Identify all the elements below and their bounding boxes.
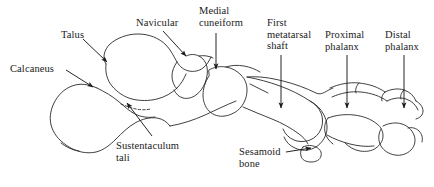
label-first-metatarsal: First metatarsal shaft (267, 17, 311, 52)
talus-bone (104, 34, 211, 71)
talus-inferior-border (106, 64, 186, 101)
plantar-contour (170, 101, 236, 126)
lesser-toe-proximal (332, 92, 387, 101)
navicular-bone (174, 55, 207, 99)
label-medial-cuneiform: Medial cuneiform (199, 5, 243, 28)
lesser-toe-joint-c (401, 90, 404, 99)
calcaneus-posterior-notch (61, 143, 79, 151)
proximal-phalanx-bone (328, 115, 383, 152)
metatarsal-inferior-border (243, 107, 308, 144)
leader-navicular (163, 31, 186, 56)
leader-sustentaculum-tali (127, 103, 152, 136)
metatarsal-head (284, 101, 327, 150)
proximal-phalanx-inferior (327, 135, 374, 146)
metatarsal-base-notch (250, 84, 268, 93)
label-talus: Talus (61, 29, 84, 41)
proximal-phalanx-base (325, 118, 333, 144)
lesser-toe-distal (387, 98, 418, 110)
foot-skeleton-diagram: Calcaneus Talus Navicular Medial cuneifo… (0, 0, 434, 187)
label-calcaneus: Calcaneus (10, 63, 54, 75)
dorsal-contour (247, 77, 333, 94)
label-distal-phalanx: Distal phalanx (385, 29, 419, 52)
lesser-toe-tip (416, 101, 423, 119)
leader-talus (83, 39, 107, 62)
label-sustentaculum-tali: Sustentaculum tali (116, 140, 179, 163)
label-sesamoid-bone: Sesamoid bone (239, 146, 281, 169)
talus-head-detail (172, 62, 177, 89)
label-navicular: Navicular (136, 17, 178, 29)
cuneiform-bone (203, 67, 247, 117)
label-proximal-phalanx: Proximal phalanx (325, 29, 364, 52)
calcaneus-superior-ridge (97, 88, 155, 117)
metatarsal-bone (247, 77, 323, 142)
